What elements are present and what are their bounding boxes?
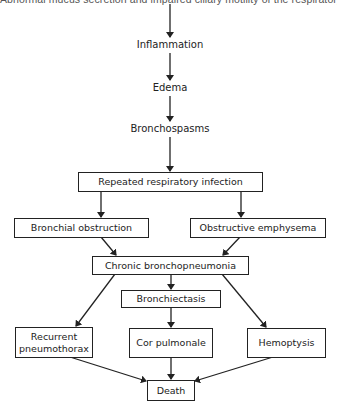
node-chronic-bronchopneumonia: Chronic bronchopneumonia [92, 256, 249, 275]
node-cor-pulmonale: Cor pulmonale [129, 328, 213, 358]
node-death: Death [147, 380, 195, 401]
node-edema: Edema [153, 82, 188, 93]
node-recurrent-pneumothorax: Recurrent pneumothorax [15, 327, 93, 358]
node-obstructive-emphysema: Obstructive emphysema [190, 218, 326, 238]
node-hemoptysis: Hemoptysis [247, 328, 326, 358]
node-bronchospasms: Bronchospasms [130, 123, 209, 134]
node-bronchiectasis: Bronchiectasis [121, 290, 221, 308]
flowchart-diagram: Abnormal mucus secretion and impaired ci… [0, 0, 337, 416]
node-bronchial-obstruction: Bronchial obstruction [14, 218, 149, 238]
node-repeated-respiratory-infection: Repeated respiratory infection [78, 172, 263, 192]
node-inflammation: Inflammation [137, 39, 203, 50]
